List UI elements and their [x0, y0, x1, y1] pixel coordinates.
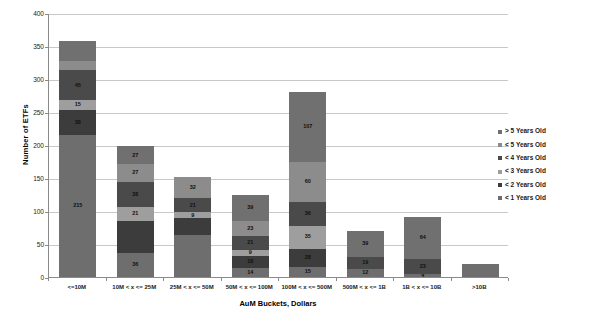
bar-segment[interactable]: 38 [117, 182, 154, 207]
legend-item[interactable]: < 4 Years Old [498, 152, 602, 165]
bar-segment-value: 38 [75, 120, 81, 126]
bar-segment[interactable]: 38 [59, 110, 96, 135]
bar-segment-value: 21 [132, 211, 138, 217]
bar-segment[interactable]: 35 [289, 226, 326, 249]
y-axis-tick-label: 50 [16, 242, 44, 249]
bar-stack[interactable]: 1528353660107 [289, 92, 326, 277]
legend-item[interactable]: < 3 Years Old [498, 165, 602, 178]
bar-segment[interactable]: 23 [232, 221, 269, 236]
bar-segment-value: 23 [247, 226, 253, 232]
bar-segment[interactable]: 36 [117, 253, 154, 277]
bar-segment-value: 4 [421, 274, 424, 277]
x-axis-tick-mark [278, 278, 279, 281]
bar-segment-value: 9 [249, 250, 252, 256]
bar-segment[interactable] [117, 221, 154, 253]
legend-item[interactable]: < 5 Years Old [498, 138, 602, 151]
bar-segment-value: 21 [190, 203, 196, 209]
bar-segment[interactable] [59, 61, 96, 70]
legend-item-label: < 3 Years Old [505, 168, 546, 175]
bar-stack[interactable]: 3621382727 [117, 146, 154, 277]
gridline [49, 113, 508, 114]
bar-segment[interactable]: 60 [289, 162, 326, 202]
bar-segment-value: 38 [132, 192, 138, 198]
bar-segment[interactable]: 15 [289, 267, 326, 277]
bar-segment[interactable]: 215 [59, 135, 96, 277]
bar-stack[interactable]: 42364 [404, 217, 441, 277]
bar-segment[interactable]: 39 [232, 195, 269, 221]
bar-segment-value: 64 [420, 235, 426, 241]
bar-stack[interactable] [462, 264, 499, 277]
gridline [49, 47, 508, 48]
bar-segment[interactable]: 19 [347, 257, 384, 270]
bar-stack[interactable]: 92132 [174, 177, 211, 277]
bar-stack[interactable]: 215381545 [59, 41, 96, 277]
bar-segment[interactable] [462, 264, 499, 277]
bar-segment[interactable]: 107 [289, 92, 326, 163]
plot-area: 2153815453621382727921321418921233915283… [48, 14, 508, 278]
bar-segment[interactable]: 21 [232, 236, 269, 250]
bar-segment-value: 15 [305, 269, 311, 275]
legend-item[interactable]: < 1 Years Old [498, 191, 602, 204]
bar-segment[interactable]: 21 [117, 207, 154, 221]
bar-segment-value: 23 [420, 264, 426, 270]
bar-segment[interactable]: 12 [347, 269, 384, 277]
x-axis-tick-mark [163, 278, 164, 281]
bar-segment[interactable]: 9 [174, 212, 211, 218]
y-axis-tick-label: 250 [16, 110, 44, 117]
bar-segment[interactable]: 23 [404, 259, 441, 274]
bar-stack[interactable]: 121939 [347, 231, 384, 277]
bar-segment-value: 19 [362, 260, 368, 266]
bar-segment[interactable]: 9 [232, 250, 269, 256]
legend-item-label: < 1 Years Old [505, 195, 546, 202]
bar-segment[interactable]: 45 [59, 70, 96, 100]
y-axis-tick-label: 150 [16, 176, 44, 183]
bar-segment-value: 107 [303, 124, 312, 130]
x-axis-tick-mark [393, 278, 394, 281]
bar-segment[interactable]: 18 [232, 256, 269, 268]
bar-segment[interactable]: 21 [174, 198, 211, 212]
x-axis-tick-mark [451, 278, 452, 281]
bar-stack[interactable]: 14189212339 [232, 195, 269, 277]
legend-item[interactable]: < 2 Years Old [498, 178, 602, 191]
bar-segment-value: 12 [362, 270, 368, 276]
x-axis-tick-mark [508, 278, 509, 281]
bar-segment-value: 9 [191, 213, 194, 219]
legend-item-label: < 4 Years Old [505, 155, 546, 162]
bar-segment[interactable] [174, 235, 211, 277]
bar-segment[interactable]: 36 [289, 202, 326, 226]
bar-segment-value: 28 [305, 255, 311, 261]
bar-segment[interactable]: 32 [174, 177, 211, 198]
bar-segment[interactable] [174, 218, 211, 235]
y-axis-tick-label: 0 [16, 275, 44, 282]
x-axis-tick-mark [221, 278, 222, 281]
chart-canvas: Number of ETFs 050100150200250300350400 … [0, 0, 606, 324]
y-axis-tick-label: 300 [16, 77, 44, 84]
bar-segment[interactable]: 27 [117, 164, 154, 182]
legend: > 5 Years Old< 5 Years Old< 4 Years Old<… [498, 125, 602, 205]
legend-item-label: > 5 Years Old [505, 128, 546, 135]
x-axis-title: AuM Buckets, Dollars [48, 299, 508, 308]
bar-segment[interactable]: 4 [404, 274, 441, 277]
bar-segment[interactable]: 27 [117, 146, 154, 164]
bar-segment-value: 215 [73, 203, 82, 209]
legend-swatch-icon [498, 143, 502, 147]
bar-segment[interactable]: 64 [404, 217, 441, 259]
bar-segment[interactable]: 15 [59, 100, 96, 110]
legend-swatch-icon [498, 130, 502, 134]
legend-item-label: < 5 Years Old [505, 142, 546, 149]
legend-item-label: < 2 Years Old [505, 182, 546, 189]
bar-segment[interactable]: 14 [232, 268, 269, 277]
bar-segment-value: 39 [247, 205, 253, 211]
bar-segment[interactable]: 28 [289, 249, 326, 267]
bar-segment-value: 27 [132, 153, 138, 159]
y-axis-tick-label: 100 [16, 209, 44, 216]
gridline [49, 14, 508, 15]
bar-segment-value: 45 [75, 83, 81, 89]
x-axis-tick-mark [106, 278, 107, 281]
bar-segment[interactable] [59, 41, 96, 61]
legend-item[interactable]: > 5 Years Old [498, 125, 602, 138]
bar-segment-value: 60 [305, 179, 311, 185]
legend-swatch-icon [498, 156, 502, 160]
bar-segment[interactable]: 39 [347, 231, 384, 257]
legend-swatch-icon [498, 170, 502, 174]
